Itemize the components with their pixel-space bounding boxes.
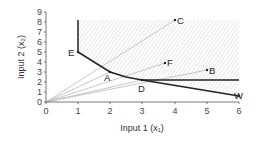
svg-text:0: 0 (37, 97, 42, 107)
svg-text:5: 5 (204, 106, 209, 116)
svg-text:0: 0 (43, 106, 48, 116)
svg-text:6: 6 (236, 106, 241, 116)
y-axis-title: Input 2 (x₂) (16, 35, 26, 79)
label-f: F (167, 57, 173, 68)
y-tick-labels: 0 1 2 3 4 5 6 7 8 9 (37, 7, 42, 107)
point-d (141, 79, 143, 81)
svg-text:7: 7 (37, 27, 42, 37)
ray-a (46, 72, 110, 102)
svg-text:5: 5 (37, 47, 42, 57)
label-c: C (177, 15, 184, 26)
svg-text:1: 1 (75, 106, 80, 116)
svg-text:6: 6 (37, 37, 42, 47)
svg-text:3: 3 (139, 106, 144, 116)
svg-text:4: 4 (37, 57, 42, 67)
x-tick-labels: 0 1 2 3 4 5 6 (43, 106, 241, 116)
label-d: D (138, 83, 145, 94)
label-a: A (104, 72, 111, 83)
label-w: W (234, 90, 243, 101)
svg-text:4: 4 (172, 106, 177, 116)
point-f (164, 62, 166, 64)
svg-text:2: 2 (107, 106, 112, 116)
svg-text:2: 2 (37, 77, 42, 87)
label-e: E (68, 47, 74, 58)
point-b (206, 69, 208, 71)
svg-text:1: 1 (37, 87, 42, 97)
point-e (77, 51, 79, 53)
svg-text:3: 3 (37, 67, 42, 77)
point-c (174, 19, 176, 21)
ray-d (46, 80, 142, 102)
chart: 0 1 2 3 4 5 6 7 8 9 0 1 2 3 4 5 6 Input … (0, 0, 256, 143)
label-b: B (209, 65, 215, 76)
x-axis-title: Input 1 (x₁) (120, 123, 164, 133)
svg-text:9: 9 (37, 7, 42, 17)
svg-text:8: 8 (37, 17, 42, 27)
feasible-region (78, 20, 239, 96)
